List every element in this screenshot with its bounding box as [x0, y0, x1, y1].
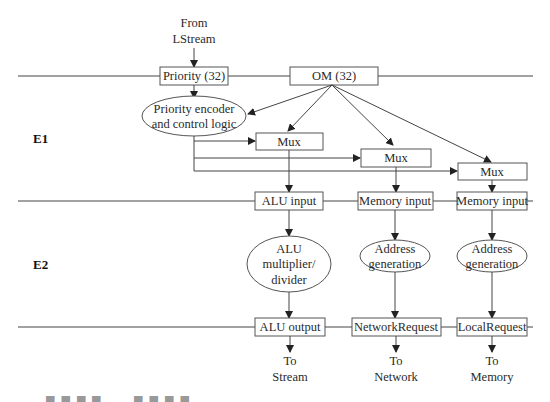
svg-text:Memory input: Memory input [456, 194, 528, 208]
clipped-caption: ▀ ▀ ▀ ▀ ▀ ▀ ▀ ▀ [0, 396, 550, 402]
alu-input-register: ALU input [255, 192, 323, 210]
alu-multiplier-divider: ALU multiplier/ divider [247, 236, 331, 292]
memory-input-register-local: Memory input [456, 192, 528, 210]
svg-text:Network: Network [374, 370, 418, 384]
address-generation-local: Address generation [457, 240, 527, 272]
pipeline-diagram: E1 E2 From LStream Priority (32) OM (32)… [0, 0, 550, 402]
mux-memory-local: Mux [458, 163, 527, 180]
stage-label-e2: E2 [33, 257, 48, 272]
alu-output-register: ALU output [255, 318, 325, 336]
svg-text:Priority encoder: Priority encoder [154, 102, 236, 116]
output-to-network: To Network [374, 354, 418, 384]
local-request-register: LocalRequest [457, 318, 527, 336]
svg-text:Memory: Memory [470, 370, 514, 384]
svg-text:Mux: Mux [480, 165, 504, 179]
svg-text:To: To [485, 354, 498, 368]
svg-text:Address: Address [472, 242, 513, 256]
svg-text:Priority (32): Priority (32) [163, 69, 225, 83]
svg-text:divider: divider [271, 273, 307, 287]
svg-text:generation: generation [466, 257, 520, 271]
svg-text:Stream: Stream [272, 370, 308, 384]
from-lstream-label-line2: LStream [172, 32, 215, 46]
priority-register: Priority (32) [160, 67, 228, 85]
svg-text:generation: generation [369, 257, 423, 271]
svg-text:ALU output: ALU output [260, 320, 321, 334]
svg-text:OM (32): OM (32) [312, 69, 356, 83]
om-register: OM (32) [290, 67, 378, 85]
svg-text:multiplier/: multiplier/ [263, 257, 316, 271]
svg-text:LocalRequest: LocalRequest [458, 320, 527, 334]
svg-text:To: To [389, 354, 402, 368]
svg-text:and control logic: and control logic [152, 117, 237, 131]
address-generation-network: Address generation [360, 240, 430, 272]
svg-text:Mux: Mux [384, 151, 408, 165]
svg-text:ALU input: ALU input [262, 194, 317, 208]
network-request-register: NetworkRequest [352, 318, 441, 336]
stage-label-e1: E1 [33, 131, 48, 146]
memory-input-register-network: Memory input [358, 192, 433, 210]
svg-text:Mux: Mux [277, 135, 301, 149]
output-to-memory: To Memory [470, 354, 514, 384]
svg-text:Memory input: Memory input [359, 194, 431, 208]
svg-text:NetworkRequest: NetworkRequest [354, 320, 439, 334]
svg-text:To: To [283, 354, 296, 368]
mux-memory-network: Mux [361, 149, 431, 167]
output-to-stream: To Stream [272, 354, 308, 384]
from-lstream-label-line1: From [180, 16, 207, 30]
priority-encoder-control-logic: Priority encoder and control logic [142, 96, 246, 136]
svg-text:Address: Address [375, 242, 416, 256]
svg-text:ALU: ALU [276, 242, 302, 256]
mux-alu: Mux [256, 133, 323, 150]
